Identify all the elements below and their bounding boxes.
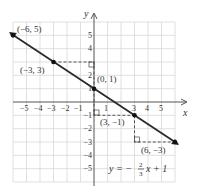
svg-text:2: 2 <box>139 161 143 169</box>
svg-text:4: 4 <box>88 44 92 53</box>
svg-text:4: 4 <box>145 104 149 113</box>
svg-text:(0, 1): (0, 1) <box>97 74 117 84</box>
svg-text:−2: −2 <box>61 104 70 113</box>
axes <box>13 13 187 186</box>
equation: y = − 2 3 x + 1 <box>108 161 167 178</box>
svg-text:−5: −5 <box>83 164 92 173</box>
svg-text:5: 5 <box>88 31 92 40</box>
svg-text:(3, −1): (3, −1) <box>100 117 125 127</box>
svg-text:−4: −4 <box>34 104 43 113</box>
svg-text:(−3, 3): (−3, 3) <box>20 65 45 75</box>
svg-text:−2: −2 <box>83 124 92 133</box>
svg-text:(6, −3): (6, −3) <box>141 145 166 155</box>
svg-text:5: 5 <box>159 104 163 113</box>
svg-text:−5: −5 <box>20 104 29 113</box>
svg-text:2: 2 <box>88 71 92 80</box>
svg-text:−3: −3 <box>83 138 92 147</box>
svg-text:−3: −3 <box>47 104 56 113</box>
svg-text:y = −: y = − <box>108 163 132 174</box>
svg-text:3: 3 <box>132 104 136 113</box>
x-axis-label: x <box>182 107 188 118</box>
y-axis-label: y <box>83 8 89 19</box>
svg-text:3: 3 <box>139 170 143 178</box>
svg-text:−1: −1 <box>74 104 83 113</box>
svg-text:−1: −1 <box>83 111 92 120</box>
svg-text:x + 1: x + 1 <box>145 163 167 174</box>
coordinate-plane: y x −5 −4 −3 −2 −1 1 3 4 5 5 4 2 1 −1 −2… <box>0 0 199 189</box>
svg-text:−4: −4 <box>83 151 92 160</box>
svg-text:1: 1 <box>104 104 108 113</box>
svg-text:(−6, 5): (−6, 5) <box>17 24 42 34</box>
